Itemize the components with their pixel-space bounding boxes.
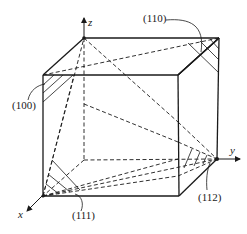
y-axis-label: y	[230, 145, 235, 156]
plane-label-112: (112)	[198, 192, 221, 203]
hidden-edges	[43, 38, 217, 196]
plane-label-110: (110)	[143, 13, 166, 24]
x-axis	[27, 195, 43, 211]
x-axis-label: x	[18, 209, 23, 220]
leader-110	[166, 20, 202, 52]
z-axis-label: z	[88, 17, 92, 28]
leader-lines	[28, 20, 210, 211]
plane-label-111: (111)	[72, 210, 95, 221]
y-vertex-dot	[215, 157, 219, 161]
hatch-110	[188, 39, 219, 73]
z-vertex-dot	[82, 36, 86, 40]
plane-label-100: (100)	[12, 100, 36, 111]
origin-dot	[41, 194, 44, 197]
